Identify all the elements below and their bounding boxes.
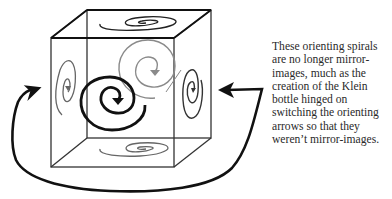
looping-arrow xyxy=(12,89,262,191)
caption-line: creation of the Klein xyxy=(272,80,390,93)
caption-line: arrows so that they xyxy=(272,120,390,133)
caption-line: bottle hinged on xyxy=(272,93,390,106)
bottom-face-spiral xyxy=(100,143,168,157)
caption-line: are no longer mirror- xyxy=(272,53,390,66)
cube-spirals-diagram xyxy=(0,0,270,199)
caption-line: These orienting spirals xyxy=(272,40,390,53)
left-face-spiral xyxy=(56,61,76,115)
front-face-spiral xyxy=(81,77,145,130)
caption-line: images, much as the xyxy=(272,67,390,80)
arrowhead-left-icon xyxy=(22,80,44,101)
back-face-spiral xyxy=(119,40,175,98)
top-face-spiral xyxy=(100,17,176,31)
figure-caption: These orienting spirals are no longer mi… xyxy=(272,40,390,146)
caption-line: weren’t mirror-images. xyxy=(272,133,390,146)
caption-line: switching the orienting xyxy=(272,106,390,119)
